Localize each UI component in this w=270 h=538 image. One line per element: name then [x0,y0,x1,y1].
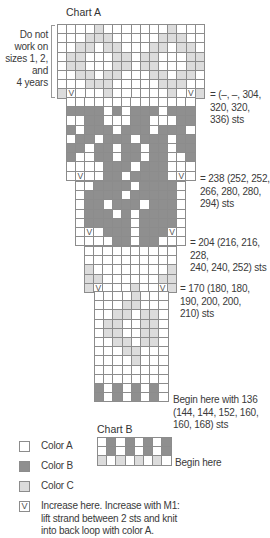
stitch-cell [150,356,159,365]
stitch-cell [104,228,113,237]
stitch-cell [104,144,113,153]
stitch-cell [122,34,131,43]
stitch-cell [113,393,122,402]
stitch-cell [159,338,168,347]
stitch-cell [58,53,67,62]
stitch-cell [159,25,168,34]
stitch-cell [85,191,94,200]
stitch-cell [104,393,113,402]
stitch-cell [168,210,177,219]
stitch-cell [131,210,140,219]
stitch-cell [159,200,168,209]
size-note-line: 4 years [0,77,48,89]
stitch-cell [159,237,168,246]
annotation-line: Begin here with 136 [173,394,259,407]
stitch-cell [104,191,113,200]
stitch-cell [132,80,141,89]
stitch-cell [168,43,177,52]
stitch-cell [149,275,158,284]
stitch-cell [95,116,104,125]
stitch-cell [186,162,195,171]
stitch-cell [94,200,103,209]
stitch-cell [186,116,195,125]
stitch-cell [177,200,186,209]
stitch-cell [58,80,67,89]
stitch-cell [85,144,94,153]
chart-b-begin-label: Begin here [175,457,221,470]
stitch-cell [140,265,149,274]
stitch-cell [104,34,113,43]
stitch-cell [150,347,159,356]
annotation-line: = 170 (180, 180, [180,283,250,296]
stitch-cell [76,71,85,80]
stitch-cell [168,275,177,284]
stitch-cell [177,191,186,200]
stitch-cell [86,80,95,89]
stitch-cell [85,172,94,181]
stitch-cell [150,191,159,200]
stitch-cell [113,107,122,116]
stitch-cell [104,172,113,181]
stitch-cell [85,126,94,135]
stitch-cell [76,200,85,209]
stitch-cell [150,25,159,34]
stitch-cell [113,144,122,153]
stitch-cell [141,356,150,365]
increase-v-icon: V [76,172,85,181]
stitch-cell [113,182,122,191]
stitch-cell [140,275,149,284]
stitch-cell [122,126,131,135]
stitch-cell [76,98,85,107]
stitch-cell [177,43,186,52]
stitch-cell [159,384,168,393]
stitch-cell [159,347,168,356]
stitch-cell [177,219,186,228]
stitch-cell [141,153,150,162]
stitch-cell [187,43,196,52]
stitch-cell [76,53,85,62]
stitch-cell [159,98,168,107]
stitch-cell [196,89,205,98]
stitch-cell [187,25,196,34]
stitch-cell [140,182,149,191]
stitch-cell [104,43,113,52]
stitch-cell [113,43,122,52]
stitch-cell [177,144,186,153]
legend-color-b: Color B [19,460,73,473]
stitch-cell [159,191,168,200]
stitch-cell [144,456,153,465]
stitch-cell [85,265,94,274]
stitch-cell [168,284,177,293]
stitch-cell [131,182,140,191]
stitch-cell [141,162,150,171]
stitch-cell [67,98,76,107]
annotation-line: 294) sts [200,198,270,211]
stitch-cell [168,237,177,246]
annotation-line: = 238 (252, 252, [200,173,270,186]
stitch-cell [104,210,113,219]
stitch-cell [159,126,168,135]
stitch-cell [159,172,168,181]
stitch-cell [196,80,205,89]
stitch-cell [95,366,104,375]
stitch-cell [159,320,168,329]
stitch-cell [196,53,205,62]
stitch-cell [95,107,104,116]
stitch-cell [168,25,177,34]
stitch-cell [141,301,150,310]
annotation-line: 320, 320, [210,102,261,115]
stitch-cell [122,107,131,116]
stitch-cell [122,144,131,153]
annotation-line: 266, 280, 280, [200,186,270,199]
stitch-cell [132,338,141,347]
stitch-cell [113,310,122,319]
stitch-cell [122,80,131,89]
stitch-cell [58,71,67,80]
stitch-cell [94,265,103,274]
stitch-cell [95,53,104,62]
stitch-cell [132,62,141,71]
stitch-cell [150,144,159,153]
stitch-cell [141,384,150,393]
stitch-cell [132,366,141,375]
stitch-cell [104,310,113,319]
